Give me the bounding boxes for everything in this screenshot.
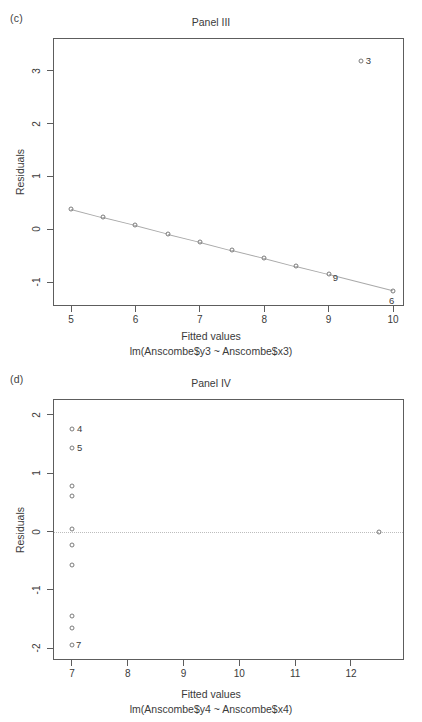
data-point [69,206,74,211]
data-point [69,614,74,619]
data-point [69,542,74,547]
data-point [69,562,74,567]
point-label: 9 [333,272,338,283]
data-point [69,484,74,489]
anscombe-residual-plots: (c) Panel III Residuals Fitted values lm… [0,0,422,722]
x-tick-mark [71,306,72,312]
y-tick-mark [47,589,53,590]
data-point [69,526,74,531]
y-tick-label: -1 [31,278,42,287]
y-tick-mark [47,229,53,230]
data-point [262,255,267,260]
x-tick-label: 12 [345,668,356,679]
panel-title-iv: Panel IV [0,377,422,389]
y-tick-label: -1 [31,585,42,594]
y-tick-mark [47,414,53,415]
y-tick-label: 0 [31,227,42,233]
x-tick-mark [71,660,72,666]
data-point [376,529,381,534]
data-point [133,223,138,228]
data-point [358,58,363,63]
data-point [69,426,74,431]
y-tick-label: 3 [31,68,42,74]
y-tick-mark [47,473,53,474]
y-tick-label: 1 [31,470,42,476]
x-tick-mark [135,306,136,312]
x-tick-mark [328,306,329,312]
panel-iv: (d) Panel IV Residuals Fitted values lm(… [0,360,422,722]
y-tick-mark [47,648,53,649]
x-tick-mark [393,306,394,312]
point-label: 7 [76,639,81,650]
data-point [294,264,299,269]
x-tick-mark [295,660,296,666]
data-point [69,446,74,451]
data-point [69,626,74,631]
x-tick-mark [199,306,200,312]
y-axis-title-iv: Residuals [14,507,26,553]
y-tick-label: 1 [31,174,42,180]
y-tick-label: 2 [31,412,42,418]
data-point [197,239,202,244]
y-tick-label: -2 [31,644,42,653]
x-tick-label: 7 [69,668,75,679]
x-tick-label: 6 [133,314,139,325]
x-tick-mark [239,660,240,666]
x-tick-label: 5 [68,314,74,325]
y-tick-label: 2 [31,121,42,127]
x-tick-label: 7 [197,314,203,325]
point-label: 6 [389,295,394,306]
y-axis-title-iii: Residuals [14,149,26,195]
data-point [326,272,331,277]
x-tick-label: 8 [261,314,267,325]
data-point [69,493,74,498]
x-tick-mark [127,660,128,666]
x-tick-mark [183,660,184,666]
x-axis-subtitle-iii: lm(Anscombe$y3 ~ Anscombe$x3) [0,345,422,357]
y-tick-label: 0 [31,529,42,535]
data-point [101,215,106,220]
panel-iii: (c) Panel III Residuals Fitted values lm… [0,0,422,362]
x-tick-label: 9 [181,668,187,679]
zero-reference-line [54,532,403,533]
x-axis-subtitle-iv: lm(Anscombe$y4 ~ Anscombe$x4) [0,703,422,715]
data-point [165,231,170,236]
x-tick-mark [350,660,351,666]
x-tick-label: 10 [234,668,245,679]
data-point [230,247,235,252]
y-tick-mark [47,531,53,532]
x-tick-mark [264,306,265,312]
point-label: 4 [77,423,82,434]
y-tick-mark [47,123,53,124]
data-point [391,288,396,293]
x-axis-title-iii: Fitted values [0,330,422,342]
point-label: 3 [366,55,371,66]
x-tick-label: 9 [326,314,332,325]
point-label: 5 [77,442,82,453]
data-point [69,643,74,648]
plot-area-iii [53,38,404,306]
y-tick-mark [47,70,53,71]
plot-area-iv [53,399,404,660]
x-axis-title-iv: Fitted values [0,688,422,700]
panel-title-iii: Panel III [0,16,422,28]
x-tick-label: 10 [387,314,398,325]
y-tick-mark [47,282,53,283]
y-tick-mark [47,176,53,177]
x-tick-label: 8 [125,668,131,679]
x-tick-label: 11 [290,668,300,679]
